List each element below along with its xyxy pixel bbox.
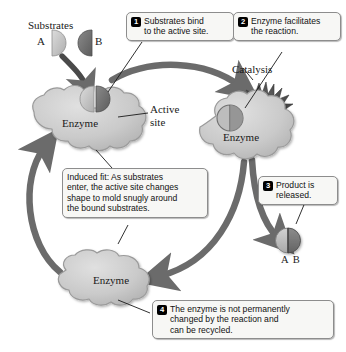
enzyme-catalysis-label: Enzyme: [223, 132, 259, 144]
callout-1-line-1: Substrates bind: [144, 16, 209, 26]
induced-fit-line-2: enter, the active site changes: [67, 182, 203, 192]
arrow-substrates-descend: [62, 56, 86, 86]
induced-fit-leader-bottom: [118, 225, 128, 244]
callout-step-3: 3 Product is released.: [258, 176, 338, 205]
enzyme-bound-label: Enzyme: [62, 118, 98, 130]
product-label: A B: [281, 254, 301, 265]
step-badge-2: 2: [238, 17, 248, 27]
arrow-bind-to-catalysis: [112, 65, 240, 86]
step-badge-3: 3: [263, 181, 273, 191]
substrate-a-label: A: [37, 36, 45, 48]
callout-step-4: 4 The enzyme is not permanently changed …: [152, 300, 334, 339]
product-shape: [276, 228, 301, 253]
callout-3-line-1: Product is: [276, 180, 314, 190]
callout-4-line-2: changed by the reaction and: [170, 314, 290, 324]
callout-step-1: 1 Substrates bind to the active site.: [126, 12, 234, 41]
callout-step-2: 2 Enzyme facilitates the reaction.: [233, 12, 341, 41]
enzyme-catalysis-shape: [200, 90, 294, 159]
step-badge-4: 4: [157, 305, 167, 315]
catalysis-bound-substrates: [217, 105, 243, 131]
callout-2-line-2: the reaction.: [251, 26, 320, 36]
callout-4-line-3: can be recycled.: [170, 325, 290, 335]
step-badge-1: 1: [131, 17, 141, 27]
substrate-b-label: B: [95, 36, 102, 48]
catalysis-label: Catalysis: [232, 64, 272, 76]
substrate-b-shape: [78, 30, 92, 56]
enzyme-cycle-diagram: Substrates A B Enzyme Enzyme Enzyme Acti…: [0, 0, 346, 352]
induced-fit-line-1: Induced fit: As substrates: [67, 172, 203, 182]
callout-1-line-2: to the active site.: [144, 26, 209, 36]
active-site-label-line2: site: [150, 117, 165, 129]
callout-3-line-2: released.: [276, 190, 314, 200]
substrates-label: Substrates: [28, 20, 73, 32]
callout4-leader: [118, 300, 150, 313]
induced-fit-leader-top: [96, 150, 112, 168]
active-site-label-line1: Active: [150, 104, 179, 116]
arrow-regenerate: [29, 148, 60, 272]
induced-fit-line-4: the bound substrates.: [67, 203, 203, 213]
enzyme-free-label: Enzyme: [93, 275, 129, 287]
callout-4-line-1: The enzyme is not permanently: [170, 304, 290, 314]
induced-fit-line-3: shape to mold snugly around: [67, 193, 203, 203]
substrate-a-shape: [52, 30, 66, 56]
callout-induced-fit: Induced fit: As substrates enter, the ac…: [62, 168, 208, 218]
callout-2-line-1: Enzyme facilitates: [251, 16, 320, 26]
